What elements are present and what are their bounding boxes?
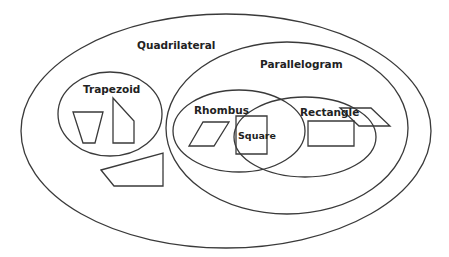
diagram-svg: Quadrilateral Parallelogram Trapezoid Rh… xyxy=(0,0,449,257)
irregular-quadrilateral-shape xyxy=(101,153,163,186)
quadrilateral-region xyxy=(21,14,431,248)
rhombus-shape xyxy=(189,122,229,146)
isosceles-trapezoid-shape xyxy=(73,112,103,143)
parallelogram-label: Parallelogram xyxy=(260,58,343,70)
square-label: Square xyxy=(238,130,276,141)
rectangle-label: Rectangle xyxy=(300,106,359,118)
venn-diagram: Quadrilateral Parallelogram Trapezoid Rh… xyxy=(0,0,449,257)
trapezoid-label: Trapezoid xyxy=(83,83,140,95)
rhombus-label: Rhombus xyxy=(194,104,249,116)
rectangle-shape xyxy=(308,121,354,146)
quadrilateral-label: Quadrilateral xyxy=(137,39,215,51)
right-trapezoid-shape xyxy=(113,98,134,143)
